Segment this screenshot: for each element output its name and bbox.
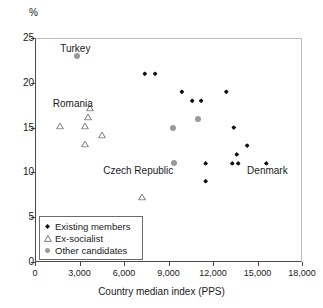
data-point-existing-member xyxy=(142,71,147,76)
circle-marker-icon xyxy=(43,245,53,255)
x-tick xyxy=(169,262,170,266)
x-tick xyxy=(35,262,36,266)
data-point-existing-member xyxy=(199,98,204,103)
annotation-denmark: Denmark xyxy=(247,165,288,176)
x-tick-label: 15,000 xyxy=(236,268,280,278)
y-tick-label: 5 xyxy=(0,212,34,222)
y-tick-label: 20 xyxy=(0,78,34,88)
legend-item-label: Ex-socialist xyxy=(55,233,103,244)
data-point-ex-socialist xyxy=(56,115,64,122)
legend-item-label: Existing members xyxy=(55,221,131,232)
annotation-czech-republic: Czech Republic xyxy=(103,165,173,176)
data-point-existing-member xyxy=(236,161,241,166)
y-tick-label: 10 xyxy=(0,167,34,177)
data-point-existing-member xyxy=(203,161,208,166)
data-point-existing-member xyxy=(203,179,208,184)
data-point-existing-member xyxy=(190,98,195,103)
triangle-marker-icon xyxy=(43,233,53,243)
data-point-ex-socialist xyxy=(98,124,106,131)
x-axis-title: Country median index (PPS) xyxy=(0,286,323,297)
data-point-ex-socialist xyxy=(138,187,146,194)
x-tick-label: 9,000 xyxy=(147,268,191,278)
y-tick-label: 25 xyxy=(0,33,34,43)
data-point-existing-member xyxy=(230,161,235,166)
diamond-marker-icon xyxy=(43,221,53,231)
y-tick-label: 15 xyxy=(0,123,34,133)
data-point-other-candidate xyxy=(195,116,201,122)
x-tick-label: 12,000 xyxy=(191,268,235,278)
data-point-existing-member xyxy=(231,125,236,130)
x-tick-label: 3,000 xyxy=(58,268,102,278)
legend: Existing members Ex-socialist Other cand… xyxy=(39,216,143,260)
legend-item-ex-socialist: Ex-socialist xyxy=(43,232,138,244)
legend-item-other-candidates: Other candidates xyxy=(43,244,138,256)
data-point-existing-member xyxy=(245,143,250,148)
data-point-existing-member xyxy=(179,89,184,94)
x-tick xyxy=(80,262,81,266)
annotation-turkey: Turkey xyxy=(60,43,90,54)
scatter-chart: % 0510152025 03,0006,0009,00012,00015,00… xyxy=(0,0,323,308)
legend-item-existing-members: Existing members xyxy=(43,220,138,232)
x-tick xyxy=(124,262,125,266)
y-axis-unit-label: % xyxy=(29,8,38,18)
annotation-romania: Romania xyxy=(53,98,93,109)
data-point-other-candidate xyxy=(170,125,176,131)
x-tick xyxy=(258,262,259,266)
data-point-existing-member xyxy=(153,71,158,76)
x-tick-label: 18,000 xyxy=(280,268,323,278)
data-point-existing-member xyxy=(224,89,229,94)
data-point-other-candidate xyxy=(74,53,80,59)
y-tick-label: 0 xyxy=(0,257,34,267)
x-tick xyxy=(213,262,214,266)
legend-item-label: Other candidates xyxy=(55,245,127,256)
x-tick xyxy=(302,262,303,266)
data-point-existing-member xyxy=(234,152,239,157)
data-point-ex-socialist xyxy=(81,133,89,140)
x-tick-label: 6,000 xyxy=(102,268,146,278)
x-tick-label: 0 xyxy=(13,268,57,278)
